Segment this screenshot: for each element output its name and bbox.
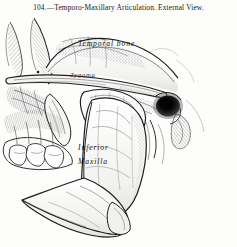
label-inferior-maxilla-line1: Inferior	[78, 143, 109, 152]
styloid-process	[146, 120, 164, 164]
figure-caption: 104.—Temporo-Maxillary Articulation. Ext…	[0, 3, 237, 12]
label-zygoma: Zygoma	[70, 71, 95, 78]
label-temporal-bone: Temporal bone	[78, 39, 135, 48]
mastoid-process	[171, 114, 190, 149]
anatomical-engraving	[0, 16, 237, 247]
parietal-foramen-dot	[37, 71, 40, 74]
figure-plate: 104.—Temporo-Maxillary Articulation. Ext…	[0, 0, 237, 247]
faint-parietal-contour	[176, 60, 194, 82]
cranium-cut-edge	[6, 18, 52, 84]
label-inferior-maxilla-line2: Maxilla	[78, 157, 108, 166]
